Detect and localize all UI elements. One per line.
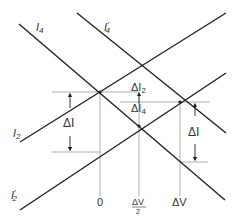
label-i4: I4 xyxy=(36,21,44,35)
intersection-dot xyxy=(137,124,140,127)
line-i4-prime xyxy=(77,13,226,133)
label-i2: I2 xyxy=(13,127,21,141)
axis-label-half-dv-num: ΔV xyxy=(132,197,144,207)
axis-label-half-dv-den: 2 xyxy=(136,208,140,215)
label-delta-i4: ΔI4 xyxy=(131,102,146,116)
axis-label-zero: 0 xyxy=(97,196,103,208)
label-delta-i-right: ΔI xyxy=(188,125,199,139)
label-delta-i2: ΔI2 xyxy=(131,81,146,95)
line-i4 xyxy=(19,24,225,200)
label-i2-prime: I′2 xyxy=(11,188,18,203)
intersection-dot xyxy=(98,90,101,93)
label-delta-i-left: ΔI xyxy=(63,116,74,130)
intersection-dot xyxy=(178,100,181,103)
diagram-canvas: I4 I′4 I2 I′2 ΔI ΔI ΔI2 ΔI4 0 ΔV 2 ΔV xyxy=(0,0,240,217)
label-i4-prime: I′4 xyxy=(104,20,111,35)
line-i2 xyxy=(20,13,226,142)
axis-label-dv: ΔV xyxy=(172,196,187,208)
line-i2-prime xyxy=(20,73,226,210)
